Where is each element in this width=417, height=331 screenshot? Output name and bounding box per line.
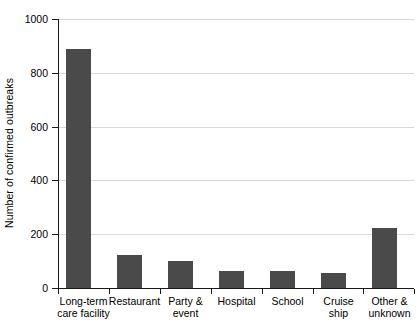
bar-cruise-ship [321,273,346,288]
x-label-other-unknown: Other & unknown [355,296,417,319]
y-tick-mark-800 [52,73,58,74]
x-tick-mark-1 [109,289,110,294]
gridline-200 [58,234,414,235]
x-tick-mark-3 [211,289,212,294]
x-tick-mark-7 [414,289,415,294]
gridline-400 [58,180,414,181]
y-tick-label-0: 0 [8,283,48,293]
bar-long-term-care-facility [66,49,91,288]
y-axis-line [58,19,59,289]
x-tick-mark-6 [363,289,364,294]
y-tick-label-1000: 1000 [8,14,48,24]
gridline-1000 [58,19,414,20]
x-tick-mark-2 [160,289,161,294]
y-tick-mark-200 [52,234,58,235]
y-tick-label-400: 400 [8,175,48,185]
bar-restaurant [117,255,142,288]
x-tick-mark-0 [58,289,59,294]
y-tick-mark-600 [52,127,58,128]
plot-area [58,19,414,288]
y-tick-label-600: 600 [8,122,48,132]
y-tick-label-800: 800 [8,68,48,78]
x-tick-mark-4 [262,289,263,294]
y-axis-title: Number of confirmed outbreaks [2,8,16,298]
x-axis-line [58,288,414,289]
bar-party-event [168,261,193,288]
y-tick-mark-400 [52,180,58,181]
bar-other-unknown [372,228,397,289]
bar-hospital [219,271,244,288]
x-tick-mark-5 [313,289,314,294]
bar-chart: Number of confirmed outbreaks 1000 800 6… [0,0,417,331]
y-tick-mark-1000 [52,19,58,20]
gridline-800 [58,73,414,74]
y-tick-label-200: 200 [8,229,48,239]
gridline-600 [58,127,414,128]
bar-school [270,271,295,288]
